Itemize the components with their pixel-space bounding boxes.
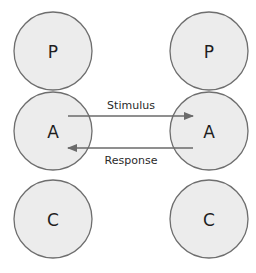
response-label: Response <box>105 154 158 167</box>
right-adult-label: A <box>203 122 215 142</box>
left-child-label: C <box>47 210 59 230</box>
left-child-state: C <box>14 180 92 258</box>
right-parent-state: P <box>170 12 248 90</box>
right-child-state: C <box>170 180 248 258</box>
stimulus-label: Stimulus <box>107 99 155 112</box>
left-adult-label: A <box>47 122 59 142</box>
left-adult-state: A <box>14 92 92 170</box>
left-parent-label: P <box>48 42 58 62</box>
right-parent-label: P <box>204 42 214 62</box>
right-adult-state: A <box>170 92 248 170</box>
right-child-label: C <box>203 210 215 230</box>
left-parent-state: P <box>14 12 92 90</box>
left-person: P A C <box>14 12 92 258</box>
ta-diagram: P A C P A C Stimulus Response <box>0 0 256 273</box>
right-person: P A C <box>170 12 248 258</box>
